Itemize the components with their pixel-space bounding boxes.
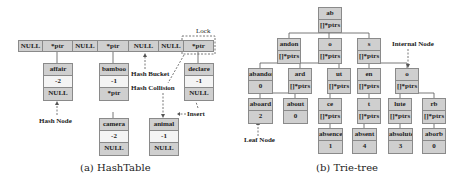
hash-bucket-label: Hash Bucket — [131, 70, 169, 78]
trie-node-about: about 0 — [283, 98, 308, 124]
node-ptrs: []*ptrs — [396, 81, 418, 93]
trie-caption: (b) Trie-tree — [316, 162, 378, 173]
trie-node-absent: absent 4 — [352, 128, 377, 154]
lock-label: Lock — [196, 27, 210, 35]
node-ptrs: []*ptrs — [358, 51, 380, 63]
node-value: -2 — [100, 131, 128, 143]
node-value: 0 — [284, 111, 307, 123]
hash-node-declare: declare -1 NULL — [184, 63, 214, 101]
bucket-0: NULL — [18, 40, 43, 52]
node-value: -1 — [185, 76, 213, 88]
node-key: absence — [319, 129, 342, 141]
trie-node-o-internal: o []*ptrs — [395, 68, 419, 94]
trie-node-andon: andon []*ptrs — [277, 38, 301, 64]
trie-node-s: s []*ptrs — [357, 38, 381, 64]
bucket-3: *ptr — [97, 40, 129, 52]
insert-label: Insert — [187, 110, 205, 118]
trie-node-en: en []*ptrs — [357, 68, 381, 94]
node-next: NULL — [44, 88, 72, 100]
leaf-node-label: Leaf Node — [244, 136, 275, 144]
node-key: ard — [289, 69, 311, 81]
node-key: ce — [319, 99, 341, 111]
trie-node-aborb: aborb 0 — [422, 128, 446, 154]
node-key: andon — [278, 39, 300, 51]
bucket-1: *ptr — [42, 40, 73, 52]
bucket-4: NULL — [128, 40, 159, 52]
node-key: aboard — [249, 99, 272, 111]
trie-node-aboard: aboard 2 — [248, 98, 273, 124]
node-value: 4 — [353, 141, 376, 153]
node-value: -2 — [44, 76, 72, 88]
hash-node-affair: affair -2 NULL — [43, 63, 73, 101]
node-ptrs: []*ptrs — [358, 111, 380, 123]
node-ptrs: []*ptrs — [319, 51, 341, 63]
node-value: 0 — [423, 141, 445, 153]
node-key: aborb — [423, 129, 445, 141]
hash-node-bamboo: bamboo -1 *ptr — [99, 63, 129, 101]
node-ptrs: []*ptrs — [278, 51, 300, 63]
node-ptrs: []*ptrs — [328, 81, 350, 93]
internal-node-label: Internal Node — [392, 40, 434, 48]
node-key: o — [319, 39, 341, 51]
hash-node-label: Hash Node — [39, 117, 72, 125]
node-next: *ptr — [100, 88, 128, 100]
node-key: camera — [100, 119, 128, 131]
node-key: lute — [389, 99, 411, 111]
node-key: rb — [423, 99, 445, 111]
trie-node-ab: ab []*ptrs — [318, 7, 342, 33]
bucket-5: NULL — [158, 40, 184, 52]
node-key: t — [358, 99, 380, 111]
node-key: animal — [150, 119, 178, 131]
node-value: 1 — [319, 141, 342, 153]
node-ptrs: []*ptrs — [358, 81, 380, 93]
node-next: NULL — [150, 143, 178, 155]
node-value: 0 — [249, 81, 272, 93]
bucket-2: NULL — [72, 40, 98, 52]
trie-node-t: t []*ptrs — [357, 98, 381, 124]
node-key: absolute — [389, 129, 412, 141]
node-next: NULL — [100, 143, 128, 155]
node-key: o — [396, 69, 418, 81]
bucket-6-locked: *ptr — [183, 40, 214, 52]
hashtable-caption: (a) HashTable — [80, 162, 151, 173]
trie-node-ce: ce []*ptrs — [318, 98, 342, 124]
node-key: s — [358, 39, 380, 51]
node-key: ab — [319, 8, 341, 20]
node-value: 3 — [389, 141, 412, 153]
node-ptrs: []*ptrs — [423, 111, 445, 123]
trie-node-ard: ard []*ptrs — [288, 68, 312, 94]
node-key: ut — [328, 69, 350, 81]
trie-node-ut: ut []*ptrs — [327, 68, 351, 94]
trie-node-rb: rb []*ptrs — [422, 98, 446, 124]
node-key: en — [358, 69, 380, 81]
node-next: NULL — [185, 88, 213, 100]
trie-node-absence: absence 1 — [318, 128, 343, 154]
node-ptrs: []*ptrs — [319, 111, 341, 123]
node-key: affair — [44, 64, 72, 76]
node-value: 2 — [249, 111, 272, 123]
node-value: -1 — [150, 131, 178, 143]
node-key: bamboo — [100, 64, 128, 76]
node-ptrs: []*ptrs — [319, 20, 341, 32]
node-ptrs: []*ptrs — [289, 81, 311, 93]
trie-node-lute: lute []*ptrs — [388, 98, 412, 124]
trie-node-abandon: abandon 0 — [248, 68, 273, 94]
trie-node-absolute: absolute 3 — [388, 128, 413, 154]
hash-node-camera: camera -2 NULL — [99, 118, 129, 156]
trie-node-o: o []*ptrs — [318, 38, 342, 64]
node-key: absent — [353, 129, 376, 141]
node-key: declare — [185, 64, 213, 76]
node-key: about — [284, 99, 307, 111]
node-value: -1 — [100, 76, 128, 88]
hash-collision-label: Hash Collision — [131, 84, 175, 92]
node-ptrs: []*ptrs — [389, 111, 411, 123]
hash-node-animal: animal -1 NULL — [149, 118, 179, 156]
node-key: abandon — [249, 69, 272, 81]
